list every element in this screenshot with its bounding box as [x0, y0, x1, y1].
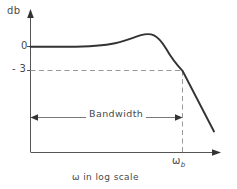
- arrow-right-icon: [175, 114, 183, 120]
- plot-canvas: [0, 0, 237, 189]
- arrow-up-icon: [27, 9, 34, 18]
- omega-subscript: b: [181, 161, 186, 169]
- arrow-right-icon: [212, 149, 221, 156]
- omega-symbol: ω: [172, 155, 181, 166]
- y-axis-title: db: [7, 5, 21, 16]
- y-tick-label-zero: 0: [21, 40, 28, 51]
- bandwidth-bode-figure: db 0 - 3 Bandwidth ωb ω in log scale: [0, 0, 237, 189]
- arrow-left-icon: [31, 114, 39, 120]
- x-tick-label-omega-b: ωb: [172, 155, 186, 169]
- bandwidth-label: Bandwidth: [86, 108, 146, 119]
- y-tick-label-minus3: - 3: [12, 63, 26, 74]
- x-axis-caption: ω in log scale: [72, 172, 139, 182]
